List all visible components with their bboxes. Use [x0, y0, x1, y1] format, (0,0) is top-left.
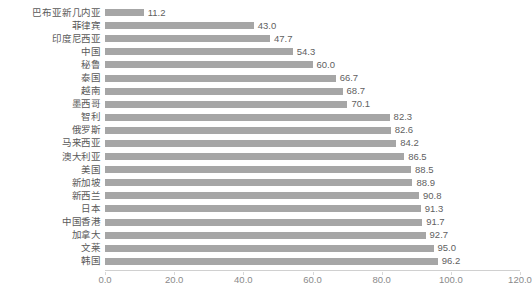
- bar-row: 智利82.3: [0, 111, 530, 124]
- category-label: 秘鲁: [0, 60, 101, 70]
- bar-row: 墨西哥70.1: [0, 98, 530, 111]
- bar-container: 90.8: [105, 189, 530, 202]
- category-label: 墨西哥: [0, 99, 101, 109]
- bar: [105, 166, 411, 173]
- x-tick-label: 40.0: [234, 274, 253, 285]
- bar: [105, 127, 391, 134]
- bar: [105, 153, 404, 160]
- bar-value-label: 86.5: [408, 152, 427, 162]
- category-label: 印度尼西亚: [0, 34, 101, 44]
- bar: [105, 219, 422, 226]
- bar-container: 95.0: [105, 242, 530, 255]
- bar-value-label: 68.7: [347, 86, 366, 96]
- bar-value-label: 54.3: [297, 47, 316, 57]
- bar-value-label: 66.7: [340, 73, 359, 83]
- bar-row: 新加坡88.9: [0, 176, 530, 189]
- bar-row: 秘鲁60.0: [0, 58, 530, 71]
- bar-value-label: 60.0: [317, 60, 336, 70]
- category-label: 加拿大: [0, 230, 101, 240]
- bar-row: 韩国96.2: [0, 255, 530, 268]
- bar-row: 越南68.7: [0, 85, 530, 98]
- x-tick-label: 60.0: [303, 274, 322, 285]
- bar-value-label: 43.0: [258, 21, 277, 31]
- bar-container: 82.6: [105, 124, 530, 137]
- bar: [105, 179, 412, 186]
- category-label: 智利: [0, 112, 101, 122]
- bar-value-label: 11.2: [148, 8, 166, 18]
- bar-row: 中国54.3: [0, 45, 530, 58]
- bar-container: 82.3: [105, 111, 530, 124]
- bar-container: 88.5: [105, 163, 530, 176]
- bar-container: 66.7: [105, 71, 530, 84]
- bar-value-label: 96.2: [442, 256, 461, 266]
- bar-value-label: 47.7: [274, 34, 293, 44]
- bar-container: 70.1: [105, 98, 530, 111]
- bar-container: 47.7: [105, 32, 530, 45]
- bar-container: 68.7: [105, 85, 530, 98]
- category-label: 新西兰: [0, 191, 101, 201]
- bar-value-label: 91.3: [425, 204, 444, 214]
- bar: [105, 245, 434, 252]
- bar-container: 86.5: [105, 150, 530, 163]
- category-label: 澳大利亚: [0, 152, 101, 162]
- bar-value-label: 82.6: [395, 125, 414, 135]
- bar-value-label: 90.8: [423, 191, 442, 201]
- x-tick-label: 120.0: [508, 274, 532, 285]
- bar-row: 加拿大92.7: [0, 229, 530, 242]
- x-axis-line: [105, 270, 520, 271]
- bar-row: 巴布亚新几内亚11.2: [0, 6, 530, 19]
- bar-row: 泰国66.7: [0, 71, 530, 84]
- category-label: 巴布亚新几内亚: [0, 8, 101, 18]
- bar-container: 60.0: [105, 58, 530, 71]
- bar-value-label: 95.0: [438, 243, 457, 253]
- bar-row: 马来西亚84.2: [0, 137, 530, 150]
- bar-value-label: 88.9: [416, 178, 435, 188]
- bar: [105, 61, 313, 68]
- bar-value-label: 91.7: [426, 217, 445, 227]
- bar: [105, 232, 426, 239]
- bar: [105, 114, 390, 121]
- bar-container: 91.3: [105, 202, 530, 215]
- bar-value-label: 82.3: [394, 112, 413, 122]
- bar: [105, 101, 347, 108]
- category-label: 文莱: [0, 243, 101, 253]
- category-label: 菲律宾: [0, 21, 101, 31]
- bar: [105, 9, 144, 16]
- category-label: 中国: [0, 47, 101, 57]
- x-tick-label: 100.0: [439, 274, 463, 285]
- bar-value-label: 84.2: [400, 138, 419, 148]
- bar-rows: 巴布亚新几内亚11.2菲律宾43.0印度尼西亚47.7中国54.3秘鲁60.0泰…: [0, 6, 530, 268]
- bar: [105, 48, 293, 55]
- bar-row: 俄罗斯82.6: [0, 124, 530, 137]
- bar: [105, 140, 396, 147]
- category-label: 越南: [0, 86, 101, 96]
- category-label: 泰国: [0, 73, 101, 83]
- bar-value-label: 92.7: [430, 230, 449, 240]
- bar-row: 文莱95.0: [0, 242, 530, 255]
- bar: [105, 258, 438, 265]
- plot-area: 巴布亚新几内亚11.2菲律宾43.0印度尼西亚47.7中国54.3秘鲁60.0泰…: [0, 0, 530, 272]
- bar-container: 84.2: [105, 137, 530, 150]
- x-tick-label: 20.0: [165, 274, 184, 285]
- x-tick-label: 0.0: [98, 274, 111, 285]
- bar-row: 新西兰90.8: [0, 189, 530, 202]
- bar-row: 日本91.3: [0, 202, 530, 215]
- category-label: 新加坡: [0, 178, 101, 188]
- category-label: 马来西亚: [0, 138, 101, 148]
- x-axis-ticks: 0.020.040.060.080.0100.0120.0: [0, 272, 530, 288]
- bar: [105, 75, 336, 82]
- x-tick-label: 80.0: [372, 274, 391, 285]
- bar-row: 菲律宾43.0: [0, 19, 530, 32]
- bar-container: 43.0: [105, 19, 530, 32]
- category-label: 美国: [0, 165, 101, 175]
- category-label: 日本: [0, 204, 101, 214]
- bar-value-label: 88.5: [415, 165, 434, 175]
- bar: [105, 35, 270, 42]
- category-label: 俄罗斯: [0, 125, 101, 135]
- bar-row: 印度尼西亚47.7: [0, 32, 530, 45]
- bar: [105, 205, 421, 212]
- bar-container: 11.2: [105, 6, 530, 19]
- bar-container: 96.2: [105, 255, 530, 268]
- bar-row: 美国88.5: [0, 163, 530, 176]
